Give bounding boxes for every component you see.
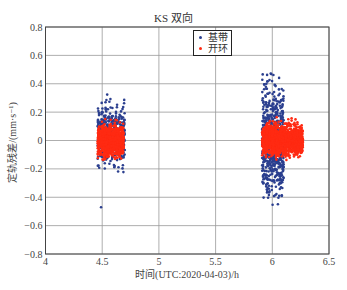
svg-text:0: 0 (38, 135, 43, 146)
blue-dot-icon (199, 36, 202, 39)
legend-item-baseband: 基带 (196, 32, 228, 43)
svg-text:0.2: 0.2 (30, 107, 43, 118)
svg-text:−0.2: −0.2 (24, 163, 42, 174)
svg-text:−0.8: −0.8 (24, 249, 42, 260)
svg-text:0.4: 0.4 (30, 78, 43, 89)
red-dot-icon (199, 47, 202, 50)
svg-text:−0.6: −0.6 (24, 220, 42, 231)
svg-text:0.6: 0.6 (30, 50, 43, 61)
svg-text:−0.4: −0.4 (24, 192, 42, 203)
legend-item-openloop: 开环 (196, 43, 228, 54)
legend: 基带 开环 (193, 30, 232, 56)
svg-text:0.8: 0.8 (30, 22, 43, 33)
legend-label-baseband: 基带 (208, 32, 228, 43)
legend-label-openloop: 开环 (208, 43, 228, 54)
y-axis-label: 定轨残差/(mm·s⁻¹) (4, 88, 19, 198)
x-axis-label: 时间(UTC:2020-04-03)/h (45, 266, 329, 281)
scatter-plot: 44.555.566.5−0.8−0.6−0.4−0.200.20.40.60.… (0, 0, 347, 290)
